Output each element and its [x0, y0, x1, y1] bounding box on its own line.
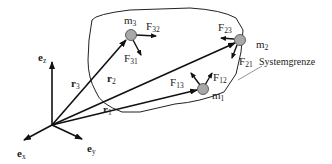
r1-vector: [52, 90, 197, 125]
mass-m2: [235, 35, 246, 46]
F12-arrow: [205, 73, 212, 85]
F32-arrow: [136, 35, 156, 36]
ex-arrow: [24, 125, 52, 140]
label-m2: m2: [256, 39, 268, 52]
F21-arrow: [232, 45, 237, 58]
mechanics-diagram: ez ex ey r3 r2 r1 m3 m2 m1 F32 F31 F23 F…: [0, 0, 332, 164]
label-m3: m3: [124, 15, 136, 28]
mass-m3: [126, 30, 137, 41]
label-F21: F21: [239, 56, 253, 69]
label-r1: r1: [103, 104, 112, 117]
label-ez: ez: [38, 52, 46, 65]
label-F12: F12: [213, 72, 227, 85]
label-F32: F32: [146, 21, 160, 34]
label-systemgrenze: Systemgrenze: [259, 57, 315, 67]
mass-m1: [198, 84, 209, 95]
label-F13: F13: [170, 77, 184, 90]
ey-arrow: [52, 125, 82, 139]
label-r3: r3: [71, 78, 80, 91]
diagram-graphics: [0, 0, 332, 164]
label-F31: F31: [124, 53, 138, 66]
label-m1: m1: [212, 90, 224, 103]
label-ex: ex: [17, 148, 26, 161]
F23-arrow: [221, 38, 234, 39]
label-F23: F23: [218, 22, 232, 35]
F13-arrow: [191, 73, 200, 85]
label-r2: r2: [107, 73, 116, 86]
label-ey: ey: [87, 143, 96, 156]
